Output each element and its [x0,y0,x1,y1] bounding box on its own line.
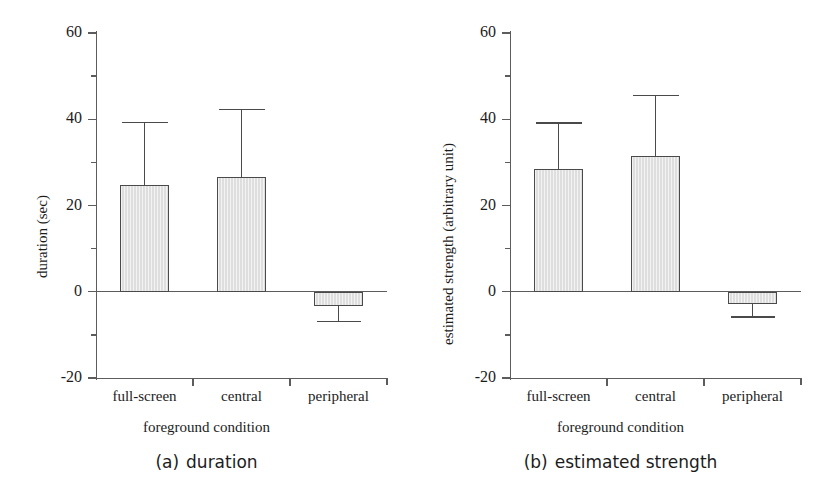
error-bar-stem [752,304,754,317]
x-tick [386,378,387,385]
panel-duration: -200204060 full-screencentralperipheral … [0,0,413,496]
x-axis-title-a: foreground condition [0,419,413,436]
x-category-label: peripheral [693,388,813,405]
x-tick [800,378,801,385]
y-tick-label: -20 [42,369,82,385]
y-tick-label: 20 [456,197,496,213]
y-tick-major [502,291,510,292]
error-bar-cap [317,321,361,323]
y-axis-line-a [96,31,97,380]
error-bar-cap [731,316,775,318]
y-tick-minor [505,162,510,163]
y-tick-major [502,119,510,120]
x-tick [289,378,290,386]
error-bar-stem [655,96,657,157]
x-tick [606,378,607,386]
bar [217,177,266,292]
bar [120,185,169,292]
panel-caption-a: (a)duration [0,452,413,472]
x-category-label: peripheral [279,388,399,405]
bar [314,292,363,306]
y-tick-major [88,377,96,378]
y-axis-title-a: duration (sec) [34,195,51,278]
y-tick-major [88,119,96,120]
y-tick-label: 0 [42,283,82,299]
caption-index-b: (b) [524,452,548,472]
y-axis-title-b: estimated strength (arbitrary unit) [440,143,457,345]
figure-root: -200204060 full-screencentralperipheral … [0,0,827,496]
y-tick-minor [505,75,510,76]
error-bar-cap [219,109,265,111]
panel-caption-b: (b)estimated strength [414,452,827,472]
error-bar-stem [241,109,243,177]
y-tick-label: 40 [42,110,82,126]
caption-text-b: estimated strength [555,452,718,472]
y-tick-major [88,291,96,292]
error-bar-stem [144,123,146,185]
x-axis-line-b [510,378,801,379]
y-tick-major [88,205,96,206]
caption-text-a: duration [186,452,258,472]
y-tick-major [502,32,510,33]
error-bar-cap [536,122,582,124]
x-axis-line-a [96,378,387,379]
y-axis-line-b [510,31,511,380]
y-tick-label: 60 [42,24,82,40]
bar [728,292,777,305]
y-tick-minor [91,162,96,163]
y-tick-minor [91,334,96,335]
y-tick-label: 0 [456,283,496,299]
panel-estimated-strength: -200204060 full-screencentralperipheral … [414,0,827,496]
y-tick-major [502,205,510,206]
y-tick-minor [91,75,96,76]
y-tick-label: 60 [456,24,496,40]
y-tick-label: 40 [456,110,496,126]
error-bar-cap [633,95,679,97]
bar [631,156,680,291]
y-tick-major [502,377,510,378]
bar [534,169,583,291]
caption-index-a: (a) [155,452,179,472]
error-bar-cap [122,122,168,124]
x-axis-title-b: foreground condition [414,419,827,436]
x-tick [192,378,193,386]
y-tick-minor [505,334,510,335]
error-bar-stem [338,306,340,322]
y-tick-label: -20 [456,369,496,385]
error-bar-stem [558,123,560,169]
y-tick-minor [91,248,96,249]
y-tick-minor [505,248,510,249]
x-tick [703,378,704,386]
y-tick-major [88,32,96,33]
